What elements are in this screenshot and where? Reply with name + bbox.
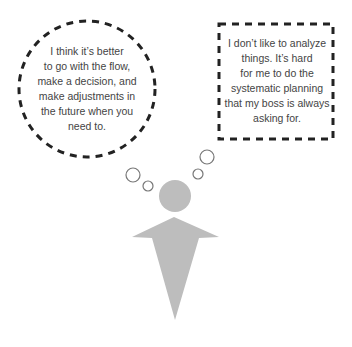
- right-thought-text: I don’t like to analyze things. It’s har…: [221, 36, 333, 126]
- right-thought-line: that my boss is always: [221, 96, 333, 111]
- left-thought-dot-small: [143, 181, 153, 191]
- right-thought-dot-large: [200, 150, 214, 164]
- right-thought-line: asking for.: [221, 111, 333, 126]
- person-head: [159, 180, 191, 212]
- left-thought-line: I think it’s better: [22, 44, 152, 59]
- thinking-person-diagram: I think it’s better to go with the flow,…: [0, 0, 352, 347]
- right-thought-line: systematic planning: [221, 81, 333, 96]
- right-thought-line: for me to do the: [221, 66, 333, 81]
- person-icon: [132, 180, 219, 320]
- left-thought-line: to go with the flow,: [22, 59, 152, 74]
- person-body: [132, 217, 219, 320]
- left-thought-text: I think it’s better to go with the flow,…: [22, 44, 152, 134]
- left-thought-line: need to.: [22, 119, 152, 134]
- right-thought-line: I don’t like to analyze: [221, 36, 333, 51]
- right-thought-dot-small: [193, 169, 203, 179]
- left-thought-line: make adjustments in: [22, 89, 152, 104]
- left-thought-line: make a decision, and: [22, 74, 152, 89]
- right-thought-line: things. It’s hard: [221, 51, 333, 66]
- left-thought-line: the future when you: [22, 104, 152, 119]
- left-thought-dot-large: [126, 168, 140, 182]
